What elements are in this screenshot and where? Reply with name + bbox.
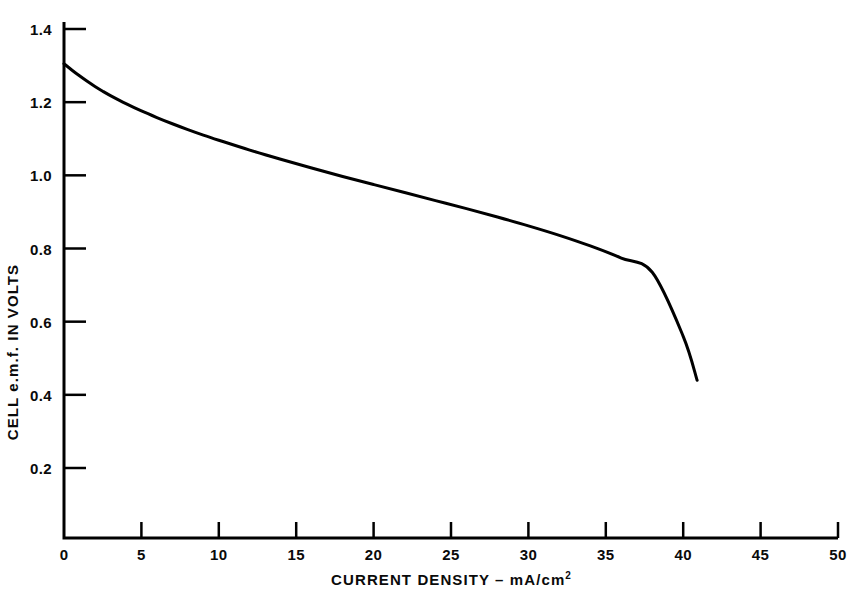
plot-area	[0, 0, 855, 599]
y-tick-label: 1.2	[0, 94, 52, 111]
x-tick-label: 0	[60, 546, 69, 563]
x-tick-label: 50	[829, 546, 847, 563]
x-axis-title: CURRENT DENSITY – mA/cm2	[64, 570, 838, 588]
y-tick-marks	[64, 29, 86, 468]
x-tick-marks	[141, 522, 838, 538]
x-tick-label: 15	[287, 546, 305, 563]
x-tick-label: 10	[210, 546, 228, 563]
x-tick-label: 25	[442, 546, 460, 563]
x-axis-title-superscript: 2	[565, 570, 571, 581]
y-tick-label: 1.0	[0, 167, 52, 184]
data-series-line	[64, 64, 697, 380]
x-axis-title-text: CURRENT DENSITY – mA/cm	[331, 571, 565, 588]
x-tick-label: 5	[137, 546, 146, 563]
y-axis-title: CELL e.m.f. IN VOLTS	[4, 212, 21, 492]
x-tick-label: 35	[597, 546, 615, 563]
x-tick-label: 20	[365, 546, 383, 563]
y-tick-label: 1.4	[0, 21, 52, 38]
axis-lines	[64, 22, 838, 538]
x-tick-label: 30	[520, 546, 538, 563]
x-tick-label: 45	[752, 546, 770, 563]
chart-figure: 0.20.40.60.81.01.21.4 051015202530354045…	[0, 0, 855, 599]
x-tick-label: 40	[674, 546, 692, 563]
